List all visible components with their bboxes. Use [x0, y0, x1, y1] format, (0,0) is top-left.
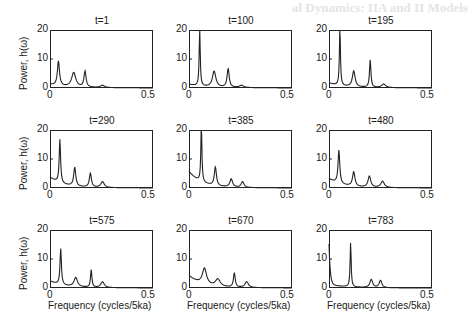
- x-tick-label: 0: [47, 289, 53, 300]
- plot-area: [329, 230, 432, 288]
- y-tick-label: 0: [307, 281, 327, 292]
- x-tick-label: 0: [186, 89, 192, 100]
- plot-area: [329, 130, 432, 188]
- y-tick-label: 20: [28, 23, 48, 34]
- panel-title: t=670: [189, 215, 293, 226]
- y-tick-label: 0: [167, 281, 187, 292]
- spectrum-panel: t=5750102000.5Power, h(ω)Frequency (cycl…: [50, 230, 153, 288]
- y-tick-label: 20: [167, 223, 187, 234]
- y-tick-label: 0: [307, 181, 327, 192]
- power-spectrum-line: [50, 61, 153, 88]
- power-spectrum-line: [189, 268, 292, 288]
- axes-frame: [190, 131, 292, 188]
- y-tick-label: 20: [167, 123, 187, 134]
- axes-frame: [330, 31, 432, 88]
- x-tick-label: 0.5: [280, 189, 294, 200]
- axes-frame: [330, 131, 432, 188]
- x-tick-label: 0: [47, 89, 53, 100]
- y-tick-label: 10: [28, 152, 48, 163]
- y-tick-label: 20: [307, 23, 327, 34]
- power-spectrum-line: [329, 150, 432, 188]
- axes-frame: [190, 31, 292, 88]
- panel-title: t=385: [189, 115, 293, 126]
- spectrum-panel: t=6700102000.5Frequency (cycles/5ka): [189, 230, 292, 288]
- spectrum-panel: t=10102000.5Power, h(ω): [50, 30, 153, 88]
- spectrum-panel: t=1000102000.5: [189, 30, 292, 88]
- power-spectrum-line: [50, 139, 153, 188]
- x-tick-label: 0: [186, 289, 192, 300]
- x-axis-label: Frequency (cycles/5ka): [48, 300, 151, 311]
- y-tick-label: 10: [28, 52, 48, 63]
- y-tick-label: 0: [307, 81, 327, 92]
- plot-area: [50, 130, 153, 188]
- plot-area: [50, 30, 153, 88]
- panel-title: t=480: [329, 115, 433, 126]
- y-axis-label: Power, h(ω): [18, 237, 29, 290]
- plot-area: [189, 130, 292, 188]
- y-tick-label: 0: [28, 281, 48, 292]
- panel-title: t=1: [50, 15, 154, 26]
- y-axis-label: Power, h(ω): [18, 37, 29, 90]
- spectrum-panel: t=7830102000.5Frequency (cycles/5ka): [329, 230, 432, 288]
- power-spectrum-line: [50, 248, 153, 287]
- y-tick-label: 20: [28, 223, 48, 234]
- panel-title: t=783: [329, 215, 433, 226]
- axes-frame: [51, 131, 153, 188]
- y-tick-label: 20: [167, 23, 187, 34]
- y-tick-label: 0: [28, 81, 48, 92]
- x-tick-label: 0.5: [420, 89, 434, 100]
- y-tick-label: 10: [28, 252, 48, 263]
- spectrum-panel: t=2900102000.5Power, h(ω): [50, 130, 153, 188]
- panel-title: t=100: [189, 15, 293, 26]
- x-tick-label: 0.5: [280, 89, 294, 100]
- y-tick-label: 10: [307, 52, 327, 63]
- power-spectrum-line: [189, 130, 292, 188]
- bleed-heading: al Dynamics: IIA and II Models: [292, 0, 468, 16]
- y-tick-label: 0: [167, 181, 187, 192]
- spectrum-panel: t=4800102000.5: [329, 130, 432, 188]
- spectrum-panel: t=1950102000.5: [329, 30, 432, 88]
- x-tick-label: 0: [186, 189, 192, 200]
- spectrum-panel: t=3850102000.5: [189, 130, 292, 188]
- y-tick-label: 10: [167, 52, 187, 63]
- power-spectrum-line: [329, 243, 432, 288]
- power-spectrum-line: [189, 30, 292, 88]
- y-axis-label: Power, h(ω): [18, 137, 29, 190]
- y-tick-label: 20: [307, 223, 327, 234]
- x-tick-label: 0.5: [420, 189, 434, 200]
- panel-title: t=290: [50, 115, 154, 126]
- x-tick-label: 0: [326, 289, 332, 300]
- x-tick-label: 0.5: [141, 89, 155, 100]
- y-tick-label: 20: [28, 123, 48, 134]
- x-tick-label: 0: [47, 189, 53, 200]
- x-tick-label: 0.5: [280, 289, 294, 300]
- y-tick-label: 20: [307, 123, 327, 134]
- x-axis-label: Frequency (cycles/5ka): [327, 300, 430, 311]
- plot-area: [189, 30, 292, 88]
- panel-title: t=575: [50, 215, 154, 226]
- y-tick-label: 0: [167, 81, 187, 92]
- axes-frame: [190, 231, 292, 288]
- x-tick-label: 0.5: [141, 289, 155, 300]
- plot-area: [189, 230, 292, 288]
- x-axis-label: Frequency (cycles/5ka): [187, 300, 290, 311]
- y-tick-label: 10: [167, 152, 187, 163]
- y-tick-label: 10: [307, 152, 327, 163]
- x-tick-label: 0.5: [420, 289, 434, 300]
- x-tick-label: 0: [326, 189, 332, 200]
- y-tick-label: 0: [28, 181, 48, 192]
- y-tick-label: 10: [167, 252, 187, 263]
- x-tick-label: 0: [326, 89, 332, 100]
- axes-frame: [51, 231, 153, 288]
- panel-title: t=195: [329, 15, 433, 26]
- y-tick-label: 10: [307, 252, 327, 263]
- plot-area: [50, 230, 153, 288]
- axes-frame: [51, 31, 153, 88]
- axes-frame: [330, 231, 432, 288]
- plot-area: [329, 30, 432, 88]
- x-tick-label: 0.5: [141, 189, 155, 200]
- power-spectrum-line: [329, 31, 432, 88]
